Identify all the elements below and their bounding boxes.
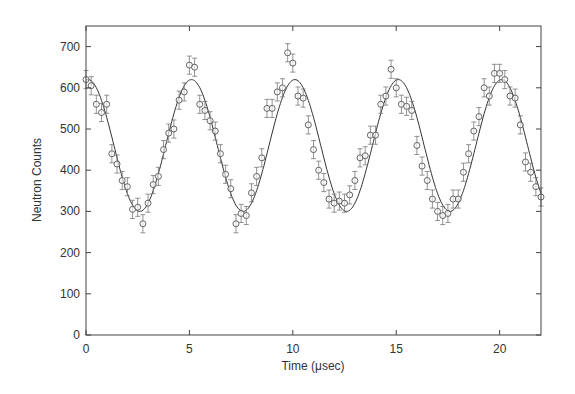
data-point bbox=[419, 157, 425, 175]
data-point bbox=[186, 56, 192, 74]
data-point bbox=[316, 161, 322, 179]
data-point bbox=[460, 163, 466, 181]
data-point bbox=[311, 141, 317, 159]
data-point bbox=[414, 136, 420, 154]
data-point bbox=[352, 171, 358, 189]
data-point bbox=[295, 87, 301, 105]
data-point bbox=[466, 145, 472, 163]
data-point bbox=[435, 202, 441, 220]
data-point bbox=[290, 54, 296, 72]
data-point bbox=[507, 87, 513, 105]
data-point bbox=[212, 122, 218, 140]
data-point bbox=[429, 190, 435, 208]
x-axis-label: Time (μsec) bbox=[281, 359, 344, 373]
data-point bbox=[93, 95, 99, 113]
data-point bbox=[238, 204, 244, 222]
data-point bbox=[424, 171, 430, 189]
data-point bbox=[243, 206, 249, 224]
data-point bbox=[228, 180, 234, 198]
data-point bbox=[512, 89, 518, 107]
data-point bbox=[274, 83, 280, 101]
y-tick-label: 400 bbox=[60, 163, 80, 177]
data-point bbox=[279, 79, 285, 97]
y-tick-label: 300 bbox=[60, 204, 80, 218]
data-point bbox=[140, 215, 146, 233]
data-point bbox=[130, 200, 136, 218]
x-tick-label: 10 bbox=[286, 342, 300, 356]
data-point bbox=[331, 194, 337, 212]
neutron-counts-chart: 05101520 0100200300400500600700 Time (μs… bbox=[0, 0, 575, 394]
y-tick-label: 200 bbox=[60, 246, 80, 260]
data-point bbox=[326, 190, 332, 208]
data-point bbox=[145, 194, 151, 212]
data-point bbox=[150, 176, 156, 194]
data-point bbox=[471, 122, 477, 140]
data-point bbox=[517, 116, 523, 134]
data-point bbox=[161, 141, 167, 159]
y-tick-label: 100 bbox=[60, 287, 80, 301]
data-point bbox=[321, 173, 327, 191]
data-point bbox=[181, 83, 187, 101]
x-tick-label: 0 bbox=[83, 342, 90, 356]
data-point bbox=[285, 44, 291, 62]
y-tick-label: 0 bbox=[73, 328, 80, 342]
data-point bbox=[135, 198, 141, 216]
data-point bbox=[217, 145, 223, 163]
x-tick-label: 20 bbox=[493, 342, 507, 356]
data-point bbox=[522, 153, 528, 171]
data-point bbox=[176, 91, 182, 109]
data-point bbox=[378, 95, 384, 113]
data-point bbox=[440, 206, 446, 224]
data-point bbox=[305, 116, 311, 134]
data-point bbox=[404, 97, 410, 115]
data-point bbox=[476, 108, 482, 126]
data-point bbox=[445, 204, 451, 222]
data-point bbox=[398, 95, 404, 113]
x-axis-ticks: 05101520 bbox=[83, 26, 507, 356]
data-point bbox=[362, 147, 368, 165]
data-point bbox=[533, 178, 539, 196]
data-point bbox=[455, 190, 461, 208]
x-tick-label: 5 bbox=[186, 342, 193, 356]
data-point bbox=[192, 58, 198, 76]
plot-frame bbox=[86, 26, 541, 335]
data-point bbox=[155, 167, 161, 185]
data-point bbox=[114, 155, 120, 173]
y-tick-label: 500 bbox=[60, 122, 80, 136]
data-point bbox=[481, 79, 487, 97]
data-point bbox=[269, 99, 275, 117]
y-axis-label: Neutron Counts bbox=[30, 138, 44, 222]
x-tick-label: 15 bbox=[390, 342, 404, 356]
data-point bbox=[388, 60, 394, 78]
plot-area bbox=[83, 44, 544, 233]
data-point bbox=[357, 149, 363, 167]
y-tick-label: 700 bbox=[60, 40, 80, 54]
data-point bbox=[233, 215, 239, 233]
data-point bbox=[347, 186, 353, 204]
y-tick-label: 600 bbox=[60, 81, 80, 95]
y-axis-ticks: 0100200300400500600700 bbox=[60, 40, 541, 342]
data-point bbox=[409, 101, 415, 119]
